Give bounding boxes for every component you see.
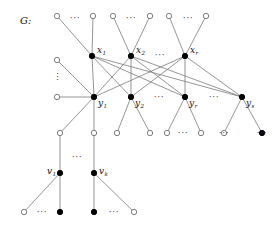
graph-node-y2 (128, 94, 133, 99)
ellipsis-top-dots-2: ··· (126, 13, 136, 23)
node-label-sub-x1: 1 (102, 50, 106, 56)
graph-node-b1 (21, 209, 26, 214)
nodes-layer (21, 13, 264, 214)
graph-edge (117, 97, 131, 133)
ellipsis-left-vdots: ⋮ (53, 72, 62, 82)
node-label-sub-y1: 1 (103, 103, 107, 109)
ellipsis-v-row-dots: ··· (72, 152, 82, 162)
graph-node-f5 (164, 130, 169, 135)
ellipsis-top-dots-3: ··· (183, 13, 193, 23)
node-label-sub-y2: 2 (139, 103, 144, 109)
figure-container: ············⋮························ G:… (0, 0, 277, 230)
graph-node-b4 (131, 209, 136, 214)
ellipsis-bottom4-dots-1: ··· (178, 128, 188, 138)
graph-node-xr (182, 53, 187, 58)
node-label-sub-v1: 1 (52, 171, 56, 177)
graph-edge (57, 60, 94, 97)
graph-node-x2 (128, 53, 133, 58)
graph-node-t1 (54, 13, 59, 18)
ellipsis-x-row-dots: ··· (155, 50, 165, 60)
graph-edge (131, 56, 242, 97)
ellipsis-bottom4-dots-2: ··· (219, 128, 229, 138)
node-label-sub-xr: r (195, 50, 198, 56)
graph-node-y1 (91, 94, 96, 99)
graph-edge (185, 56, 242, 97)
graph-node-t3 (110, 13, 115, 18)
ellipsis-bottom-dots-2: ··· (109, 207, 119, 217)
graph-node-vk (91, 170, 96, 175)
ellipsis-y-row-dots-1: ··· (154, 92, 164, 102)
graph-node-f3 (114, 130, 119, 135)
node-label-y2: y2 (134, 98, 144, 109)
graph-node-l1 (54, 57, 59, 62)
graph-node-f4 (147, 130, 152, 135)
node-label-ys: ys (245, 98, 254, 109)
graph-node-yr (182, 94, 187, 99)
ellipsis-top-dots-1: ··· (70, 13, 80, 23)
graph-node-t4 (147, 13, 152, 18)
node-label-yr: yr (188, 98, 197, 109)
graph-node-t5 (166, 13, 171, 18)
graph-edge (92, 16, 93, 56)
graph-edge (92, 56, 242, 97)
graph-diagram: ············⋮························ G:… (0, 0, 277, 230)
figure-name-label: G: (20, 15, 31, 26)
node-label-vk: vk (99, 166, 108, 177)
ellipsis-bottom4-dots-3: ··· (257, 128, 267, 138)
ellipsis-bottom-dots-1: ··· (37, 207, 47, 217)
edges-layer (24, 16, 262, 212)
graph-node-f2 (91, 130, 96, 135)
graph-node-f6 (198, 130, 203, 135)
graph-node-v1 (57, 170, 62, 175)
ellipsis-y-row-dots-2: ··· (209, 92, 219, 102)
graph-node-t6 (203, 13, 208, 18)
graph-edge (92, 56, 94, 97)
node-label-xr: xr (190, 45, 198, 56)
graph-node-x1 (89, 53, 94, 58)
node-label-sub-vk: k (104, 171, 108, 177)
graph-node-f1 (57, 130, 62, 135)
graph-edge (60, 97, 94, 133)
graph-node-b3 (91, 209, 96, 214)
node-label-x2: x2 (136, 45, 145, 56)
node-label-sub-yr: r (194, 103, 197, 109)
node-label-x1: x1 (97, 45, 106, 56)
graph-node-b2 (57, 209, 62, 214)
node-label-sub-x2: 2 (140, 50, 145, 56)
graph-node-t2 (90, 13, 95, 18)
node-label-y1: y1 (97, 98, 107, 109)
graph-node-l2 (54, 94, 59, 99)
node-label-sub-ys: s (251, 103, 254, 109)
graph-node-ys (239, 94, 244, 99)
node-label-v1: v1 (47, 166, 56, 177)
